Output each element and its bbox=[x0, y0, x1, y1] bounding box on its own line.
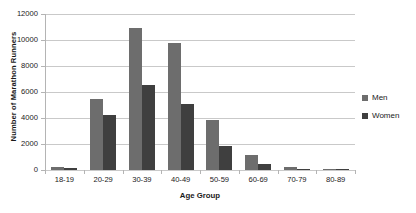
bar-men bbox=[206, 120, 219, 170]
legend-item-men[interactable]: Men bbox=[362, 93, 399, 102]
bar-group bbox=[161, 14, 200, 170]
y-tick-label: 10000 bbox=[0, 35, 38, 44]
y-tick-label: 0 bbox=[0, 165, 38, 174]
bar-men bbox=[90, 99, 103, 170]
x-tick-label: 50-59 bbox=[200, 175, 239, 184]
x-tick-mark bbox=[161, 170, 162, 174]
x-tick-mark bbox=[84, 170, 85, 174]
y-tick-label: 8000 bbox=[0, 61, 38, 70]
x-tick-mark bbox=[123, 170, 124, 174]
x-tick-mark bbox=[200, 170, 201, 174]
bar-men bbox=[129, 28, 142, 170]
x-tick-mark bbox=[239, 170, 240, 174]
y-tick-label: 2000 bbox=[0, 139, 38, 148]
bar-men bbox=[168, 43, 181, 170]
bar-women bbox=[258, 164, 271, 170]
chart-legend: MenWomen bbox=[362, 93, 399, 129]
x-tick-label: 80-89 bbox=[316, 175, 355, 184]
x-tick-mark bbox=[278, 170, 279, 174]
y-tick-label: 12000 bbox=[0, 9, 38, 18]
bar-women bbox=[103, 115, 116, 170]
x-tick-label: 30-39 bbox=[123, 175, 162, 184]
bar-women bbox=[336, 169, 349, 170]
legend-label: Men bbox=[372, 93, 388, 102]
legend-swatch-icon bbox=[362, 95, 368, 101]
bar-group bbox=[239, 14, 278, 170]
bar-women bbox=[142, 85, 155, 170]
bar-men bbox=[284, 167, 297, 170]
bar-women bbox=[219, 146, 232, 170]
bar-group bbox=[123, 14, 162, 170]
y-tick-label: 6000 bbox=[0, 87, 38, 96]
bar-group bbox=[278, 14, 317, 170]
plot-area bbox=[45, 14, 355, 170]
x-tick-label: 20-29 bbox=[84, 175, 123, 184]
x-tick-mark bbox=[45, 170, 46, 174]
legend-swatch-icon bbox=[362, 113, 368, 119]
marathon-runners-bar-chart: Number of Marathon Runners 0200040006000… bbox=[0, 0, 416, 213]
bar-women bbox=[181, 104, 194, 170]
x-tick-label: 60-69 bbox=[239, 175, 278, 184]
bar-group bbox=[45, 14, 84, 170]
bar-men bbox=[323, 169, 336, 170]
bar-men bbox=[245, 155, 258, 170]
bar-men bbox=[51, 167, 64, 170]
x-tick-label: 18-19 bbox=[45, 175, 84, 184]
bar-group bbox=[200, 14, 239, 170]
bar-group bbox=[316, 14, 355, 170]
legend-label: Women bbox=[372, 111, 399, 120]
bar-group bbox=[84, 14, 123, 170]
y-tick-label: 4000 bbox=[0, 113, 38, 122]
bar-women bbox=[297, 169, 310, 170]
x-tick-mark bbox=[316, 170, 317, 174]
x-tick-label: 40-49 bbox=[161, 175, 200, 184]
x-tick-label: 70-79 bbox=[278, 175, 317, 184]
legend-item-women[interactable]: Women bbox=[362, 111, 399, 120]
x-tick-mark bbox=[355, 170, 356, 174]
x-axis-title: Age Group bbox=[45, 191, 355, 200]
bar-women bbox=[64, 168, 77, 170]
